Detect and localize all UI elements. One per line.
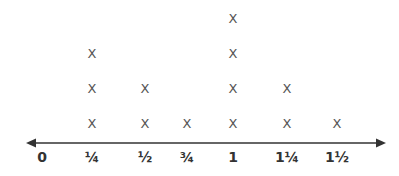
x-mark: X xyxy=(141,81,150,96)
tick-label: 1½ xyxy=(325,149,349,165)
x-mark: X xyxy=(283,81,292,96)
tick-label: 1¼ xyxy=(275,149,299,165)
x-mark: X xyxy=(229,81,238,96)
x-mark: X xyxy=(333,116,342,131)
x-mark: X xyxy=(183,116,192,131)
x-mark: X xyxy=(229,116,238,131)
x-mark: X xyxy=(283,116,292,131)
tick-label: ¼ xyxy=(85,149,100,165)
line-plot: 0¼½¾11¼1½ XXXXXXXXXXXXX xyxy=(0,0,399,176)
x-mark: X xyxy=(88,116,97,131)
x-mark: X xyxy=(141,116,150,131)
x-mark: X xyxy=(88,81,97,96)
x-mark: X xyxy=(88,46,97,61)
right-arrow-icon xyxy=(376,139,386,148)
line-plot-svg: 0¼½¾11¼1½ XXXXXXXXXXXXX xyxy=(0,0,399,176)
tick-label: ¾ xyxy=(180,149,195,165)
x-mark: X xyxy=(229,11,238,26)
left-arrow-icon xyxy=(26,139,36,148)
x-mark: X xyxy=(229,46,238,61)
tick-label: 0 xyxy=(37,149,47,165)
tick-label: 1 xyxy=(228,149,238,165)
tick-label: ½ xyxy=(138,149,153,165)
